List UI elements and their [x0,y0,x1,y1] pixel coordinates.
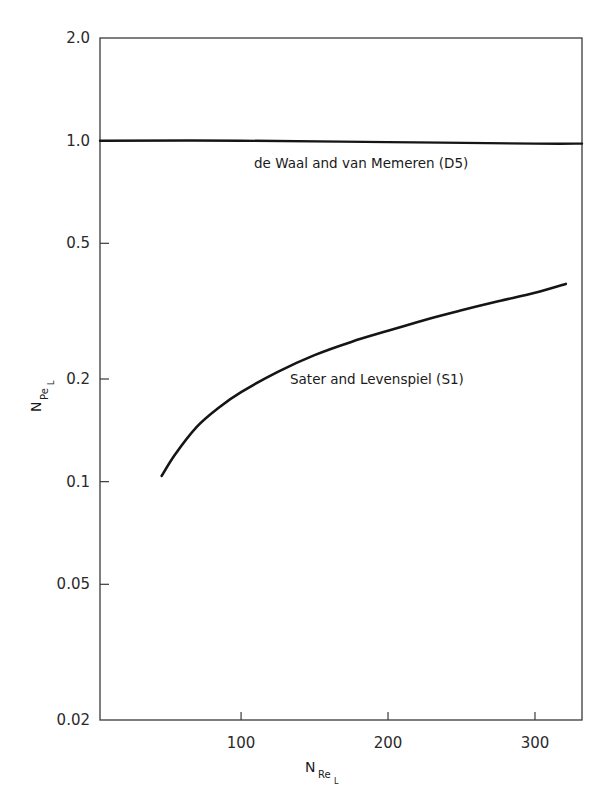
svg-text:L: L [334,777,339,786]
y-tick-label: 1.0 [66,132,90,150]
y-axis-title: N Pe L [28,380,56,412]
svg-text:N: N [305,759,315,775]
annotation-s1: Sater and Levenspiel (S1) [290,371,464,387]
x-axis-title: N Re L [305,759,339,786]
y-tick-label: 0.1 [66,473,90,491]
chart: 0.020.050.10.20.51.02.0 100200300 de Waa… [0,0,604,808]
y-tick-label: 0.2 [66,370,90,388]
x-tick-label: 100 [227,734,256,752]
series-layer [100,141,582,476]
x-tick-label: 300 [521,734,550,752]
y-tick-label: 0.02 [57,711,90,729]
svg-text:N: N [28,402,44,412]
svg-text:L: L [47,380,56,385]
x-tick-label: 200 [374,734,403,752]
svg-text:Re: Re [318,769,331,780]
y-tick-label: 0.05 [57,575,90,593]
y-tick-label: 0.5 [66,234,90,252]
svg-text:Pe: Pe [39,388,50,400]
y-tick-label: 2.0 [66,29,90,47]
x-axis: 100200300 [227,712,550,752]
annotation-d5: de Waal and van Memeren (D5) [254,155,468,171]
y-axis: 0.020.050.10.20.51.02.0 [57,29,109,729]
series-line-d5 [100,141,582,144]
